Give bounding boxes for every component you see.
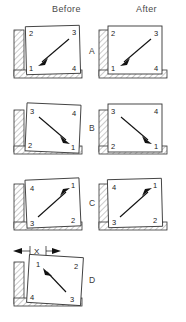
corner-label-bottom-left: 2 <box>111 142 115 151</box>
corner-label-bottom-right: 4 <box>72 64 76 73</box>
corner-label-bottom-right: 2 <box>153 216 157 225</box>
row-letter-a: A <box>89 46 95 56</box>
corner-label-bottom-right: 4 <box>154 64 158 73</box>
row-c-before-panel: 4 1 3 2 <box>14 178 82 230</box>
corner-label-top-right: 2 <box>74 262 78 271</box>
column-header-before: Before <box>52 4 81 14</box>
corner-label-top-right: 1 <box>71 181 75 190</box>
corner-label-bottom-right: 2 <box>71 216 75 225</box>
corner-label-top-left: 4 <box>112 183 116 192</box>
corner-label-bottom-left: 3 <box>30 219 34 228</box>
corner-label-bottom-left: 1 <box>29 64 33 73</box>
figure-canvas: Before After 2 3 1 4 A <box>0 0 186 322</box>
corner-label-bottom-left: 2 <box>28 141 32 150</box>
corner-label-top-left: 3 <box>30 107 34 116</box>
row-c-after-panel: 4 1 3 2 <box>99 178 167 230</box>
corner-label-bottom-left: 3 <box>112 218 116 227</box>
row-b-after-panel: 3 4 2 1 <box>99 104 167 154</box>
corner-label-top-right: 3 <box>72 28 76 37</box>
corner-label-top-left: 4 <box>30 184 34 193</box>
corner-label-bottom-right: 1 <box>71 143 75 152</box>
corner-label-bottom-left: 1 <box>111 64 115 73</box>
corner-label-top-right: 1 <box>153 181 157 190</box>
corner-label-bottom-left: 4 <box>30 293 34 302</box>
corner-label-top-right: 4 <box>72 109 76 118</box>
row-a-after-panel: 2 3 1 4 <box>99 26 167 78</box>
corner-label-bottom-right: 3 <box>70 295 74 304</box>
corner-label-top-left: 2 <box>29 29 33 38</box>
corner-label-bottom-right: 1 <box>154 142 158 151</box>
corner-label-top-right: 4 <box>154 107 158 116</box>
corner-label-top-right: 3 <box>154 29 158 38</box>
corner-label-top-left: 1 <box>36 260 40 269</box>
corner-label-top-left: 2 <box>111 29 115 38</box>
row-letter-d: D <box>89 275 95 285</box>
corner-label-top-left: 3 <box>111 107 115 116</box>
row-letter-b: B <box>89 123 95 133</box>
row-letter-c: C <box>89 198 95 208</box>
row-b-before-panel: 3 4 2 1 <box>14 103 82 154</box>
column-header-after: After <box>136 4 157 14</box>
row-a-before-panel: 2 3 1 4 <box>14 25 82 78</box>
